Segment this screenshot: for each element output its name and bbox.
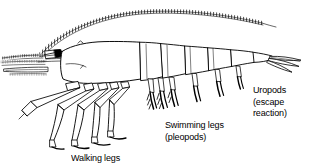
uropods-label-line-2: (escape xyxy=(253,96,287,108)
figure-page: Uropods (escape reaction) Swimming legs … xyxy=(0,0,309,168)
carapace-icon xyxy=(61,41,141,84)
uropods-label: Uropods (escape reaction) xyxy=(253,84,287,119)
walking-legs-label-line-1: Walking legs xyxy=(71,152,120,164)
antennules-icon xyxy=(2,55,48,75)
uropods-tail-fan-icon xyxy=(253,52,301,72)
uropods-label-line-1: Uropods xyxy=(253,84,287,96)
swimming-legs-label: Swimming legs (pleopods) xyxy=(165,119,224,142)
uropods-label-line-3: reaction) xyxy=(253,107,287,119)
walking-legs-label: Walking legs xyxy=(71,152,120,164)
swimming-legs-label-line-2: (pleopods) xyxy=(165,131,224,143)
walking-legs-icon xyxy=(19,81,130,149)
swimming-legs-label-line-1: Swimming legs xyxy=(165,119,224,131)
